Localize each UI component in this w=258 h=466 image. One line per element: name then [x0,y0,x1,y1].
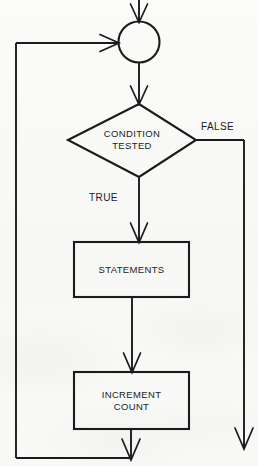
decision-label: CONDITION TESTED [88,128,176,151]
entry-connector-circle [119,22,160,63]
connector-to-decision-arrow [131,62,148,105]
statements-label: STATEMENTS [78,264,185,276]
entry-arrow [131,0,148,23]
false-branch-label: FALSE [201,121,234,132]
true-branch-label: TRUE [89,192,118,203]
true-branch-arrow [131,177,148,243]
flowchart-page: CONDITION TESTED STATEMENTS INCREMENT CO… [0,0,258,466]
increment-count-label: INCREMENT COUNT [78,389,185,412]
loopback-entry-arrow [16,35,119,52]
false-branch-path [196,140,253,449]
increment-to-loopback-arrow [122,429,140,460]
statements-to-increment-arrow [124,297,141,373]
